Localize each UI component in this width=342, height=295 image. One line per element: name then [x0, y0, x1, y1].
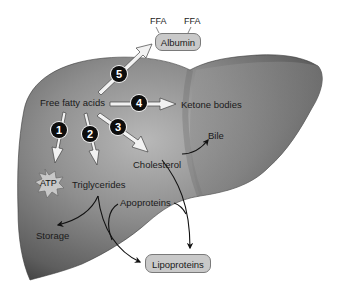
albumin-node: Albumin: [155, 33, 201, 51]
pathway-badge-4: 4: [131, 95, 147, 111]
pathway-badge-1: 1: [51, 122, 67, 138]
triglycerides-node: Triglycerides: [72, 180, 126, 190]
ketone-bodies-node: Ketone bodies: [181, 100, 242, 110]
lipoproteins-node: Lipoproteins: [145, 254, 211, 273]
ffa-label-left: FFA: [150, 17, 167, 26]
ffa-label-right: FFA: [184, 17, 201, 26]
bile-node: Bile: [208, 131, 224, 141]
cholesterol-node: Cholesterol: [133, 160, 181, 170]
free-fatty-acids-node: Free fatty acids: [40, 98, 105, 108]
apoproteins-connector: [174, 203, 186, 214]
pathway-badge-3: 3: [110, 119, 126, 135]
apoproteins-node: Apoproteins: [120, 198, 171, 208]
liver-fatty-acid-diagram: FFA FFA Albumin Free fatty acids Ketone …: [0, 0, 342, 295]
storage-node: Storage: [36, 231, 69, 241]
atp-node: ATP: [40, 179, 57, 188]
pathway-badge-2: 2: [82, 126, 98, 142]
pathway-badge-5: 5: [111, 66, 127, 82]
ffa-bond-left: [156, 27, 159, 33]
